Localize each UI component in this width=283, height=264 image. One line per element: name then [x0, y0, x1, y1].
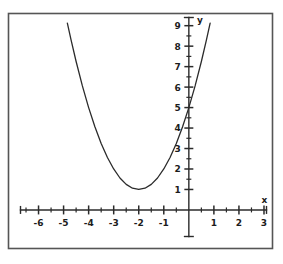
y-axis-tick-label: 2 [175, 164, 181, 174]
x-axis-tick-label: -3 [109, 218, 119, 228]
y-axis-tick-label: 5 [175, 103, 181, 113]
x-axis-tick-label: -1 [159, 218, 169, 228]
x-axis-tick-label: -4 [84, 218, 94, 228]
x-axis-tick-label: 3 [261, 218, 267, 228]
y-axis-label: y [197, 15, 203, 25]
x-axis-tick-label: -5 [59, 218, 69, 228]
x-axis-tick-label: -6 [34, 218, 44, 228]
x-axis-tick-label: 1 [211, 218, 217, 228]
x-axis-tick-label: -2 [134, 218, 144, 228]
y-axis-tick-label: 8 [175, 42, 181, 52]
x-axis-tick-label: 2 [236, 218, 242, 228]
parabola-graph-figure: -6-5-4-3-2-1123123456789xy [0, 0, 283, 264]
y-axis-tick-label: 1 [175, 185, 181, 195]
y-axis-tick-label: 4 [175, 123, 181, 133]
y-axis-tick-label: 6 [175, 83, 181, 93]
y-axis-tick-label: 7 [175, 62, 181, 72]
x-axis-label: x [262, 195, 268, 205]
y-axis-tick-label: 9 [175, 21, 181, 31]
chart-canvas: -6-5-4-3-2-1123123456789xy [0, 0, 283, 264]
